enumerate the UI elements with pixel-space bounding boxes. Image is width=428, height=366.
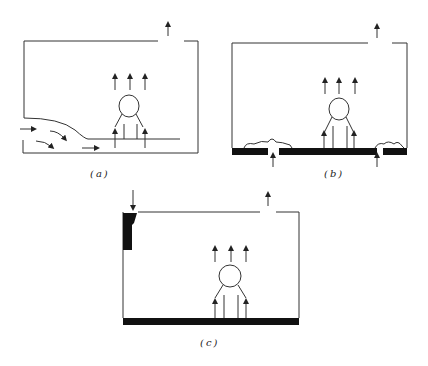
heat-source-b-1 <box>244 139 292 148</box>
panel-c <box>123 190 299 325</box>
occupant-head-a <box>119 95 139 117</box>
inflow-arrow-a2 <box>50 131 65 139</box>
wall-supply-c <box>123 213 137 250</box>
room-c-right <box>276 212 299 318</box>
inflow-arrow-a3 <box>36 141 52 147</box>
panel-label-a: (a) <box>90 168 110 179</box>
floor-c <box>123 318 299 325</box>
occupant-head-c <box>219 265 241 287</box>
room-a-outline-upper <box>24 41 180 139</box>
occupant-body-a <box>115 114 143 127</box>
occupant-head-b <box>329 98 349 120</box>
floor-b-3 <box>383 148 407 155</box>
occupant-body-b <box>324 117 354 133</box>
room-b-outline-right <box>392 43 407 148</box>
panel-label-b: (b) <box>324 168 344 179</box>
panel-b <box>232 26 407 167</box>
floor-b-2 <box>279 148 377 155</box>
room-b-outline-left <box>232 43 368 148</box>
room-a-outline-lower <box>23 41 198 153</box>
heat-source-b-2 <box>375 142 404 148</box>
panel-a <box>20 24 198 153</box>
floor-b-1 <box>232 148 268 155</box>
panel-label-c: (c) <box>200 337 219 348</box>
diagram-canvas <box>0 0 428 366</box>
